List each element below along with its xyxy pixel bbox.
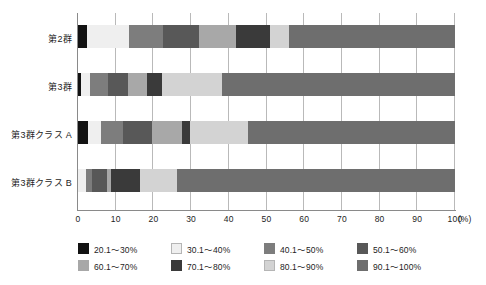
legend-swatch-icon	[357, 243, 368, 254]
legend-label: 30.1～40%	[187, 243, 230, 255]
bar-segment	[88, 121, 101, 144]
bar-row	[78, 169, 455, 192]
legend-item[interactable]: 90.1～100%	[357, 258, 450, 273]
stacked-bar-1	[78, 73, 455, 96]
bar-segment	[248, 121, 455, 144]
legend-label: 50.1～60%	[373, 243, 416, 255]
bar-segment	[199, 25, 237, 48]
bar-segment	[108, 73, 128, 96]
x-axis-unit: (%)	[458, 214, 471, 224]
legend-item[interactable]: 70.1～80%	[171, 258, 264, 273]
legend-swatch-icon	[78, 260, 89, 271]
bar-segment	[90, 73, 108, 96]
bar-segment	[222, 73, 455, 96]
plot-area	[78, 13, 455, 210]
bar-row	[78, 73, 455, 96]
bar-segment	[236, 25, 270, 48]
y-axis-label-2: 第3群クラス A	[0, 128, 72, 141]
bar-segment	[177, 169, 455, 192]
bar-segment	[78, 121, 88, 144]
x-tick-80: 80	[365, 214, 395, 224]
y-axis-label-0: 第2群	[0, 32, 72, 45]
stacked-bar-3	[78, 169, 455, 192]
x-tick-50: 50	[252, 214, 282, 224]
x-axis-line	[77, 210, 456, 211]
chart-legend: 20.1～30%30.1～40%40.1～50%50.1～60%60.1～70%…	[78, 241, 450, 273]
legend-label: 90.1～100%	[373, 260, 421, 272]
legend-item[interactable]: 60.1～70%	[78, 258, 171, 273]
stacked-bar-chart: 第2群 第3群 第3群クラス A 第3群クラス B 01020304050607…	[0, 0, 486, 285]
bar-segment	[101, 121, 124, 144]
legend-label: 20.1～30%	[94, 243, 137, 255]
legend-label: 40.1～50%	[280, 243, 323, 255]
bar-segment	[182, 121, 190, 144]
x-tick-60: 60	[289, 214, 319, 224]
bar-segment	[147, 73, 162, 96]
stacked-bar-0	[78, 25, 455, 48]
legend-item[interactable]: 30.1～40%	[171, 241, 264, 256]
bar-segment	[78, 169, 86, 192]
bar-segment	[289, 25, 455, 48]
bar-segment	[78, 25, 87, 48]
stacked-bar-2	[78, 121, 455, 144]
bar-row	[78, 25, 455, 48]
bar-segment	[129, 25, 163, 48]
legend-item[interactable]: 50.1～60%	[357, 241, 450, 256]
legend-label: 70.1～80%	[187, 260, 230, 272]
bar-segment	[92, 169, 107, 192]
legend-swatch-icon	[264, 260, 275, 271]
legend-swatch-icon	[357, 260, 368, 271]
legend-item[interactable]: 80.1～90%	[264, 258, 357, 273]
bar-segment	[111, 169, 140, 192]
x-tick-20: 20	[138, 214, 168, 224]
legend-swatch-icon	[171, 243, 182, 254]
x-tick-90: 90	[402, 214, 432, 224]
legend-swatch-icon	[78, 243, 89, 254]
x-tick-70: 70	[327, 214, 357, 224]
bar-row	[78, 121, 455, 144]
x-tick-30: 30	[176, 214, 206, 224]
bar-segment	[162, 73, 222, 96]
bar-segment	[128, 73, 147, 96]
bar-segment	[140, 169, 177, 192]
legend-swatch-icon	[171, 260, 182, 271]
x-tick-40: 40	[214, 214, 244, 224]
legend-label: 60.1～70%	[94, 260, 137, 272]
bar-segment	[163, 25, 199, 48]
legend-swatch-icon	[264, 243, 275, 254]
y-axis-label-1: 第3群	[0, 80, 72, 93]
bar-segment	[190, 121, 248, 144]
legend-label: 80.1～90%	[280, 260, 323, 272]
legend-item[interactable]: 20.1～30%	[78, 241, 171, 256]
bar-segment	[123, 121, 152, 144]
x-tick-0: 0	[63, 214, 93, 224]
bar-segment	[270, 25, 289, 48]
bar-segment	[87, 25, 128, 48]
bar-segment	[81, 73, 90, 96]
y-axis-label-3: 第3群クラス B	[0, 176, 72, 189]
bar-segment	[152, 121, 182, 144]
x-tick-10: 10	[101, 214, 131, 224]
legend-item[interactable]: 40.1～50%	[264, 241, 357, 256]
